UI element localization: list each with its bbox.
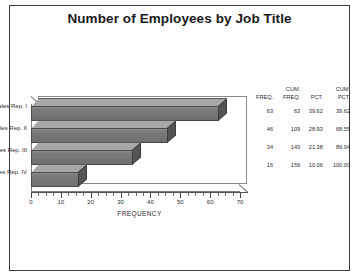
x-minor-tick [113, 193, 114, 196]
x-minor-tick [38, 193, 39, 196]
x-major-tick [61, 193, 62, 198]
table-cell-pct: 10.06 [302, 156, 325, 174]
bar-4[interactable] [31, 164, 88, 187]
x-major-tick [121, 193, 122, 198]
table-row: 3414321.3889.94 [248, 138, 352, 156]
bar-front-face [31, 172, 79, 187]
x-major-tick [31, 193, 32, 198]
x-minor-tick [46, 193, 47, 196]
x-minor-tick [136, 193, 137, 196]
x-minor-tick [106, 193, 107, 196]
header-line-1: CUM. [275, 86, 300, 94]
bar-front-face [31, 106, 219, 121]
x-minor-tick [53, 193, 54, 196]
y-tick-label-4: Sales Rep. IV [0, 169, 27, 175]
x-tick-label-8: 70 [237, 199, 244, 205]
table-header-cell-3: PCT. [302, 86, 325, 102]
x-minor-tick [128, 193, 129, 196]
table-row: 1615910.06100.00 [248, 156, 352, 174]
table-row: 636339.6239.62 [248, 102, 352, 120]
table-cell-cum-pct: 39.62 [325, 102, 352, 120]
x-minor-tick [143, 193, 144, 196]
frequency-table: FREQ.CUM.FREQ. PCT.CUM.PCT. 636339.6239.… [248, 86, 352, 174]
header-line-1 [302, 86, 323, 94]
x-minor-tick [225, 193, 226, 196]
bar-front-face [31, 128, 168, 143]
table-cell-freq: 63 [248, 102, 275, 120]
y-tick-label-2: Sales Rep. II [0, 125, 27, 131]
table-cell-cum-pct: 89.94 [325, 138, 352, 156]
table-cell-pct: 28.93 [302, 120, 325, 138]
bars-layer [31, 96, 261, 192]
bar-2[interactable] [31, 120, 177, 143]
x-minor-tick [173, 193, 174, 196]
table-body: 636339.6239.624610928.9368.553414321.388… [248, 102, 352, 174]
y-tick-label-1: Sales Rep. I [0, 103, 27, 109]
x-tick-label-3: 20 [87, 199, 94, 205]
table-cell-cum-freq: 143 [275, 138, 302, 156]
x-axis-title: FREQUENCY [31, 210, 248, 217]
table-cell-cum-pct: 68.55 [325, 120, 352, 138]
table-header-cell-4: CUM.PCT. [325, 86, 352, 102]
frequency-table-grid: FREQ.CUM.FREQ. PCT.CUM.PCT. 636339.6239.… [248, 86, 352, 174]
header-line-2: FREQ. [248, 94, 273, 102]
table-head: FREQ.CUM.FREQ. PCT.CUM.PCT. [248, 86, 352, 102]
x-major-tick [91, 193, 92, 198]
table-header-cell-1: FREQ. [248, 86, 275, 102]
x-minor-tick [218, 193, 219, 196]
header-line-2: FREQ. [275, 94, 300, 102]
bar-front-face [31, 150, 133, 165]
page-title: Number of Employees by Job Title [0, 11, 359, 26]
x-minor-tick [158, 193, 159, 196]
x-major-tick [210, 193, 211, 198]
x-tick-label-2: 10 [58, 199, 65, 205]
table-row: 4610928.9368.55 [248, 120, 352, 138]
table-header-row: FREQ.CUM.FREQ. PCT.CUM.PCT. [248, 86, 352, 102]
x-tick-label-1: 0 [29, 199, 32, 205]
table-cell-freq: 34 [248, 138, 275, 156]
header-line-2: PCT. [302, 94, 323, 102]
x-tick-label-6: 50 [177, 199, 184, 205]
x-major-tick [180, 193, 181, 198]
table-cell-pct: 39.62 [302, 102, 325, 120]
x-minor-tick [233, 193, 234, 196]
x-minor-tick [188, 193, 189, 196]
x-major-tick [240, 193, 241, 198]
x-minor-tick [68, 193, 69, 196]
bar-1[interactable] [31, 98, 228, 121]
table-cell-cum-freq: 63 [275, 102, 302, 120]
header-line-1: CUM. [325, 86, 350, 94]
x-minor-tick [165, 193, 166, 196]
x-minor-tick [195, 193, 196, 196]
header-line-1 [248, 86, 273, 94]
x-major-tick [150, 193, 151, 198]
y-tick-label-3: Sales Rep. III [0, 147, 27, 153]
table-cell-cum-pct: 100.00 [325, 156, 352, 174]
x-tick-label-4: 30 [117, 199, 124, 205]
chart-page: Number of Employees by Job Title Employe… [0, 0, 359, 279]
table-cell-freq: 46 [248, 120, 275, 138]
table-cell-pct: 21.38 [302, 138, 325, 156]
x-axis-line [31, 192, 248, 193]
table-cell-freq: 16 [248, 156, 275, 174]
x-tick-label-5: 40 [147, 199, 154, 205]
bar-3[interactable] [31, 142, 142, 165]
table-cell-cum-freq: 159 [275, 156, 302, 174]
x-tick-label-7: 60 [207, 199, 214, 205]
header-line-2: PCT. [325, 94, 350, 102]
x-minor-tick [76, 193, 77, 196]
table-cell-cum-freq: 109 [275, 120, 302, 138]
x-minor-tick [83, 193, 84, 196]
table-header-cell-2: CUM.FREQ. [275, 86, 302, 102]
x-minor-tick [203, 193, 204, 196]
x-minor-tick [98, 193, 99, 196]
